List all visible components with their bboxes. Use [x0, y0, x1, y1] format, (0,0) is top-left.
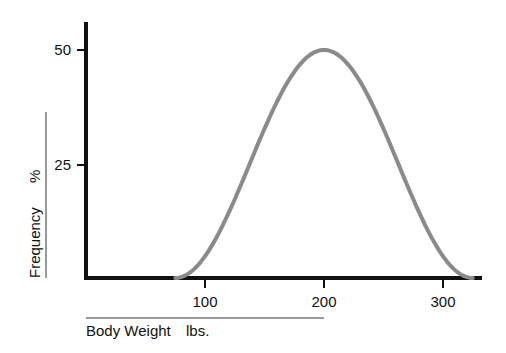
x-tick-label-300: 300 [430, 293, 455, 310]
y-tick-label-25: 25 [54, 156, 71, 173]
x-axis-unit: lbs. [186, 322, 209, 339]
bell-curve-chart: 50 25 100 200 300 Frequency % Body Weigh… [0, 0, 506, 353]
distribution-curve [175, 50, 473, 278]
y-axis-title: Frequency [26, 207, 43, 278]
y-axis-unit: % [26, 170, 43, 183]
y-tick-label-50: 50 [54, 41, 71, 58]
x-axis-title: Body Weight [86, 322, 172, 339]
x-tick-label-200: 200 [311, 293, 336, 310]
x-tick-label-100: 100 [192, 293, 217, 310]
